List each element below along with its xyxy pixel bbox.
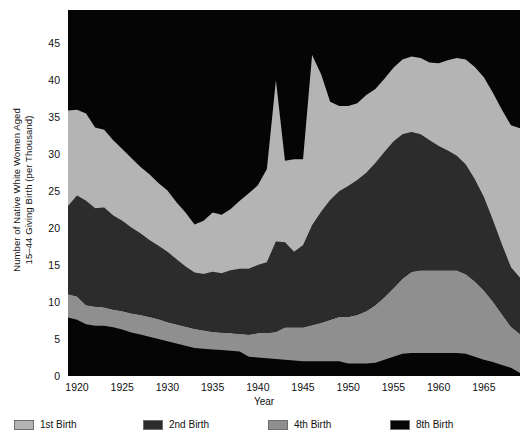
legend-label: 8th Birth <box>416 419 453 430</box>
legend-swatch-icon <box>143 420 163 430</box>
x-axis-tick-label: 1965 <box>472 381 495 393</box>
y-axis-tick-label: 5 <box>34 333 60 345</box>
legend-swatch-icon <box>390 420 410 430</box>
x-axis-tick-label: 1950 <box>337 381 360 393</box>
y-axis-tick-label: 25 <box>34 185 60 197</box>
y-axis-tick-label: 20 <box>34 222 60 234</box>
x-axis-tick-label: 1960 <box>427 381 450 393</box>
y-axis-tick-label: 0 <box>34 370 60 382</box>
legend-label: 2nd Birth <box>169 419 209 430</box>
x-axis-tick-label: 1925 <box>111 381 134 393</box>
stacked-area-series <box>68 10 520 376</box>
x-axis-tick-label: 1920 <box>65 381 88 393</box>
chart-legend: 1st Birth2nd Birth4th Birth8th Birth <box>0 415 528 437</box>
legend-item: 4th Birth <box>268 419 331 430</box>
legend-label: 1st Birth <box>40 419 77 430</box>
legend-item: 1st Birth <box>14 419 77 430</box>
y-axis-tick-label: 45 <box>34 37 60 49</box>
y-axis-tick-label: 40 <box>34 74 60 86</box>
x-axis-tick-label: 1935 <box>201 381 224 393</box>
y-axis-tick-label: 30 <box>34 148 60 160</box>
y-axis-tick-label: 15 <box>34 259 60 271</box>
y-axis-tick-label: 35 <box>34 111 60 123</box>
y-axis-title-line1: Number of Native White Women Aged <box>11 108 22 272</box>
legend-item: 2nd Birth <box>143 419 209 430</box>
x-axis-tick-label: 1930 <box>156 381 179 393</box>
y-axis-tick-label: 10 <box>34 296 60 308</box>
legend-item: 8th Birth <box>390 419 453 430</box>
chart-figure: Number of Native White Women Aged 15–44 … <box>0 0 528 440</box>
x-axis-tick-label: 1940 <box>246 381 269 393</box>
x-axis-tick-label: 1945 <box>291 381 314 393</box>
legend-swatch-icon <box>14 420 34 430</box>
x-axis-tick-label: 1955 <box>382 381 405 393</box>
legend-swatch-icon <box>268 420 288 430</box>
legend-label: 4th Birth <box>294 419 331 430</box>
x-axis-title: Year <box>0 396 528 407</box>
plot-area <box>68 10 520 376</box>
